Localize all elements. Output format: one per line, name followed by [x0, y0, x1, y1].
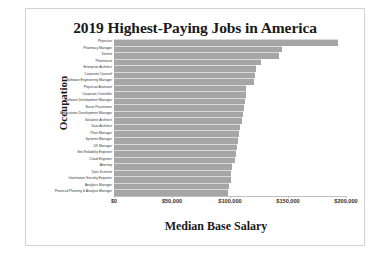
category-label: Data Architect [91, 126, 112, 129]
category-label: Systems Manager [85, 139, 112, 142]
x-tick-label: $50,000 [162, 198, 182, 204]
x-axis-title: Median Base Salary [86, 219, 346, 234]
category-label: Corporate Controller [82, 93, 112, 96]
bar-row: Financial Planning & Analysis Manager [114, 189, 346, 196]
y-axis-title: Occupation [57, 58, 69, 148]
category-label: Data Scientist [92, 171, 112, 174]
x-tick-label: $150,000 [276, 198, 299, 204]
category-label: Information Security Engineer [69, 178, 112, 181]
x-tick-label: $200,000 [334, 198, 357, 204]
category-label: Solutions Architect [85, 119, 112, 122]
category-label: Corporate Counsel [84, 73, 112, 76]
category-label: Physician Assistant [84, 86, 112, 89]
x-tick-label: $100,000 [218, 198, 241, 204]
category-label: Software Development Manager [65, 99, 112, 102]
category-label: Dentist [102, 54, 112, 57]
category-label: Nurse Practitioner [86, 106, 112, 109]
bar [114, 189, 228, 196]
category-label: Financial Planning & Analysis Manager [55, 191, 112, 194]
plot-area: PhysicianPharmacy ManagerDentistPharmaci… [114, 39, 346, 196]
chart-frame: 2019 Highest-Paying Jobs in America Occu… [25, 8, 365, 246]
category-label: Software Engineering Manager [67, 80, 112, 83]
category-label: Attorney [100, 165, 112, 168]
category-label: Analytics Manager [85, 184, 112, 187]
category-label: Plant Manager [91, 132, 112, 135]
x-tick-label: $0 [111, 198, 117, 204]
category-label: UX Manager [93, 145, 112, 148]
category-label: Physician [98, 41, 112, 44]
chart-title: 2019 Highest-Paying Jobs in America [26, 19, 364, 37]
category-label: Pharmacist [96, 60, 113, 63]
category-label: Enterprise Architect [83, 67, 112, 70]
category-label: Applications Development Manager [60, 112, 112, 115]
category-label: Cloud Engineer [89, 158, 112, 161]
category-label: Site Reliability Engineer [77, 152, 112, 155]
category-label: Pharmacy Manager [83, 47, 112, 50]
